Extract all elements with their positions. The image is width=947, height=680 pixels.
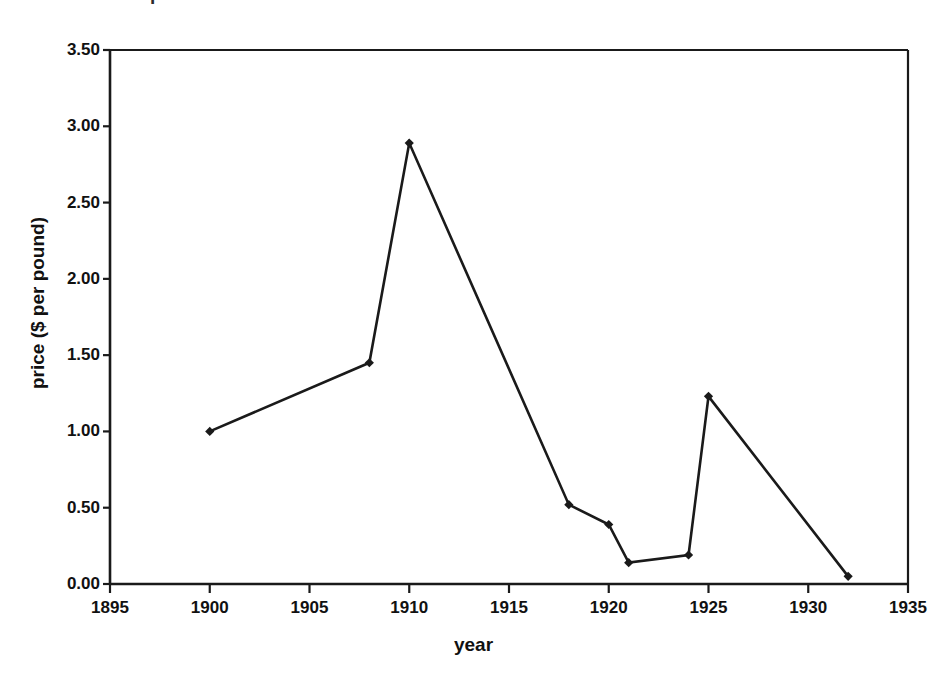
x-tick-label: 1935: [863, 598, 947, 618]
axis-frame: [110, 50, 908, 584]
clipped-title-region: price of radium: [0, 0, 947, 13]
plot-area: [0, 0, 947, 680]
y-tick-label: 3.00: [38, 116, 100, 136]
x-tick-label-layer: 189519001905191019151920192519301935: [0, 598, 947, 628]
x-tick-label: 1895: [65, 598, 155, 618]
data-point-marker: [624, 558, 633, 567]
x-tick-label: 1920: [564, 598, 654, 618]
y-axis-title: price ($ per pound): [27, 173, 49, 433]
x-tick-label: 1905: [265, 598, 355, 618]
x-tick-label: 1900: [165, 598, 255, 618]
data-point-marker: [205, 427, 214, 436]
data-point-marker: [405, 138, 414, 147]
chart-title-clipped: price of radium: [150, 0, 290, 5]
x-tick-label: 1910: [364, 598, 454, 618]
data-point-marker: [604, 520, 613, 529]
chart-figure: price of radium 0.000.501.001.502.002.50…: [0, 0, 947, 680]
x-tick-label: 1925: [664, 598, 754, 618]
x-tick-label: 1930: [763, 598, 853, 618]
x-tick-label: 1915: [464, 598, 554, 618]
data-line: [210, 143, 848, 576]
data-markers: [205, 138, 853, 581]
data-point-marker: [564, 500, 573, 509]
y-tick-label: 0.00: [38, 574, 100, 594]
data-point-marker: [684, 550, 693, 559]
x-axis-ticks: [110, 584, 908, 593]
data-point-marker: [365, 358, 374, 367]
y-tick-label: 3.50: [38, 40, 100, 60]
y-tick-label: 0.50: [38, 498, 100, 518]
x-axis-title: year: [0, 634, 947, 656]
